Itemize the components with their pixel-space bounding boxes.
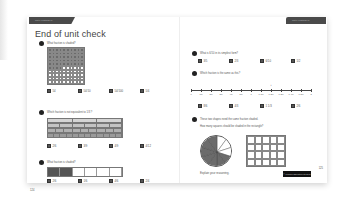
question-4-options: 3/5 2/3 6/10 1/2 (198, 59, 322, 63)
option-a[interactable]: 54 (47, 89, 78, 93)
fraction-wall-piece (64, 129, 72, 132)
fraction-wall-piece (81, 129, 89, 132)
option-c[interactable]: 54/100 (109, 89, 140, 93)
question-5: Which fraction is the same as this? (192, 71, 240, 76)
question-text: What is 6/10 in its simplest form? (200, 52, 238, 55)
fraction-wall-row (47, 133, 123, 138)
fraction-strip-figure (47, 167, 123, 177)
hundred-grid-figure (47, 47, 85, 85)
option-letter-box (229, 104, 233, 108)
option-letter-box (109, 144, 113, 148)
option-letter-box (109, 179, 113, 183)
explain-prompt: Explain your reasoning. (200, 171, 229, 175)
rectangle-square[interactable] (255, 159, 263, 167)
rectangle-square[interactable] (247, 159, 255, 167)
option-d[interactable]: 5/4 (140, 89, 171, 93)
fraction-wall-piece (97, 124, 109, 127)
fraction-wall-piece (114, 129, 122, 132)
rectangle-square[interactable] (277, 144, 285, 152)
option-d[interactable]: 2/4 (140, 179, 171, 183)
option-letter-box (78, 179, 82, 183)
rectangle-square[interactable] (255, 136, 263, 144)
strip-part (110, 168, 122, 176)
option-letter-box (291, 104, 295, 108)
option-letter-box (47, 179, 51, 183)
option-b[interactable]: 54/10 (78, 89, 109, 93)
rectangle-square[interactable] (270, 136, 278, 144)
number-line-tick (211, 89, 212, 92)
question-1: What fraction is shaded? (39, 41, 76, 46)
number-line-label: 5/6 (239, 93, 242, 95)
option-c[interactable]: 4/6 (109, 179, 140, 183)
rectangle-square[interactable] (262, 159, 270, 167)
textbook-spread: Unit 9: Fractions (1) End of unit check … (27, 17, 327, 183)
option-d[interactable]: 2/6 (291, 104, 322, 108)
rectangle-square[interactable] (247, 144, 255, 152)
rectangle-grid-figure[interactable] (246, 135, 286, 167)
pie-chart-icon (201, 136, 232, 167)
question-number-badge (192, 117, 197, 122)
strip-part (85, 168, 97, 176)
question-number-badge (192, 51, 197, 56)
option-b[interactable]: 4/3 (229, 104, 260, 108)
question-text: Which fraction is the same as this? (200, 72, 240, 75)
question-4: What is 6/10 in its simplest form? (192, 51, 238, 56)
number-line-tick (201, 89, 202, 92)
fraction-wall-piece (60, 124, 72, 127)
option-c[interactable]: 4/9 (109, 144, 140, 148)
arrow-down-icon: ↓ (270, 83, 272, 87)
number-line-label: 2 (310, 93, 311, 95)
rectangle-square[interactable] (255, 144, 263, 152)
unit-tab: Unit 9: Fractions (1) (286, 17, 326, 24)
option-letter-box (78, 89, 82, 93)
rectangle-square[interactable] (262, 144, 270, 152)
question-text: What fraction is shaded? (47, 42, 76, 45)
fraction-wall-piece (106, 129, 114, 132)
rectangle-square[interactable] (247, 151, 255, 159)
fraction-wall-piece (89, 129, 97, 132)
rectangle-square[interactable] (255, 151, 263, 159)
strip-part (48, 168, 60, 176)
question-text: These two shapes need the same fraction … (200, 118, 258, 121)
fraction-wall-piece (48, 129, 56, 132)
pie-figure (200, 135, 232, 167)
rectangle-square[interactable] (277, 151, 285, 159)
number-line-label: 3/6 (219, 93, 222, 95)
number-line-figure: 01/62/63/64/65/611 1/61 2/6↓1 3/61 4/61 … (191, 86, 311, 96)
option-b[interactable]: 3/9 (78, 144, 109, 148)
question-6: These two shapes need the same fraction … (192, 117, 258, 122)
strip-part (73, 168, 85, 176)
copyright-badge: © Pearson Education Ltd 2017 (283, 171, 311, 177)
option-letter-box (229, 59, 233, 63)
number-line-tick (251, 89, 252, 92)
option-a[interactable]: 2/6 (47, 179, 78, 183)
rectangle-square[interactable] (270, 144, 278, 152)
number-line-label: 1 (250, 93, 251, 95)
rectangle-square[interactable] (277, 159, 285, 167)
rectangle-square[interactable] (262, 136, 270, 144)
page-number: 124 (30, 189, 34, 192)
number-line-tick (241, 89, 242, 92)
option-b[interactable]: 1/6 (78, 179, 109, 183)
fraction-wall-piece (48, 119, 73, 122)
rectangle-square[interactable] (247, 136, 255, 144)
option-letter-box (291, 59, 295, 63)
grid-cell (80, 80, 84, 84)
rectangle-square[interactable] (270, 159, 278, 167)
number-line-label: 2/6 (209, 93, 212, 95)
question-5-options: 8/6 4/3 1 1/3 2/6 (198, 104, 322, 108)
option-b[interactable]: 2/3 (229, 59, 260, 63)
unit-tab-label: Unit 9: Fractions (1) (35, 19, 53, 21)
option-a[interactable]: 2/6 (47, 144, 78, 148)
option-a[interactable]: 8/6 (198, 104, 229, 108)
option-c[interactable]: 1 1/3 (260, 104, 291, 108)
option-a[interactable]: 3/5 (198, 59, 229, 63)
rectangle-square[interactable] (262, 151, 270, 159)
option-d[interactable]: 4/12 (140, 144, 171, 148)
option-letter-box (260, 59, 264, 63)
option-d[interactable]: 1/2 (291, 59, 322, 63)
rectangle-square[interactable] (277, 136, 285, 144)
number-line-tick (291, 89, 292, 92)
rectangle-square[interactable] (270, 151, 278, 159)
option-c[interactable]: 6/10 (260, 59, 291, 63)
